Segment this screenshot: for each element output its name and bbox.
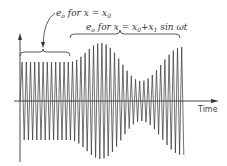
waveform-diagram: Time eo for x = x0 eo for x = x0+x1 sin …: [0, 0, 227, 166]
brace-constant: [20, 49, 70, 56]
y-axis-arrow-icon: [18, 33, 22, 40]
label-constant: eo for x = x0: [56, 8, 111, 19]
leader-arrow-icon: [41, 42, 45, 48]
horizontal-axis: [14, 99, 219, 103]
x-axis-label: Time: [197, 105, 218, 114]
leader-line: [43, 13, 55, 44]
x-axis-arrow-icon: [211, 99, 219, 103]
label-modulated: eo for x = x0+x1 sin ωt: [86, 22, 188, 33]
